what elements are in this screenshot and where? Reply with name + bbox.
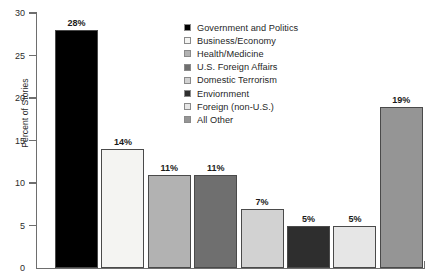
legend-item-label: Health/Medicine: [197, 49, 264, 59]
bar: [194, 175, 237, 269]
bar-value-label: 28%: [67, 18, 85, 28]
bar: [333, 226, 376, 269]
legend-item: U.S. Foreign Affairs: [184, 61, 298, 74]
legend-item: All Other: [184, 113, 298, 126]
bar: [148, 175, 191, 269]
legend-item: Foreign (non-U.S.): [184, 100, 298, 113]
legend-item-label: Foreign (non-U.S.): [197, 102, 274, 112]
legend-item: Domestic Terrorism: [184, 74, 298, 87]
legend-swatch-icon: [184, 103, 191, 110]
bar-value-label: 14%: [114, 137, 132, 147]
bar-value-label: 7%: [256, 197, 269, 207]
legend-swatch-icon: [184, 90, 191, 97]
legend-item-label: All Other: [197, 115, 233, 125]
bar: [241, 209, 284, 269]
bar-value-label: 11%: [207, 163, 225, 173]
legend-item-label: Domestic Terrorism: [197, 75, 277, 85]
legend-swatch-icon: [184, 37, 191, 44]
legend-item: Government and Politics: [184, 21, 298, 34]
legend-item-label: Government and Politics: [197, 23, 298, 33]
bar-chart: Percent of Stories 051015202530 28%14%11…: [0, 0, 429, 279]
legend-swatch-icon: [184, 116, 191, 123]
legend-item-label: Business/Economy: [197, 36, 276, 46]
legend-item: Health/Medicine: [184, 47, 298, 60]
legend-swatch-icon: [184, 77, 191, 84]
bar: [55, 30, 98, 268]
bar: [287, 226, 330, 269]
legend-item: Enviornment: [184, 87, 298, 100]
bar: [380, 107, 423, 269]
legend-swatch-icon: [184, 24, 191, 31]
legend-swatch-icon: [184, 64, 191, 71]
bar-value-label: 5%: [302, 214, 315, 224]
bar-value-label: 5%: [348, 214, 361, 224]
bar-value-label: 11%: [161, 163, 179, 173]
legend-item-label: Enviornment: [197, 89, 249, 99]
bar-value-label: 19%: [392, 95, 410, 105]
legend-item: Business/Economy: [184, 34, 298, 47]
legend-swatch-icon: [184, 50, 191, 57]
legend-item-label: U.S. Foreign Affairs: [197, 62, 278, 72]
bar: [101, 149, 144, 268]
chart-legend: Government and PoliticsBusiness/EconomyH…: [184, 21, 298, 127]
